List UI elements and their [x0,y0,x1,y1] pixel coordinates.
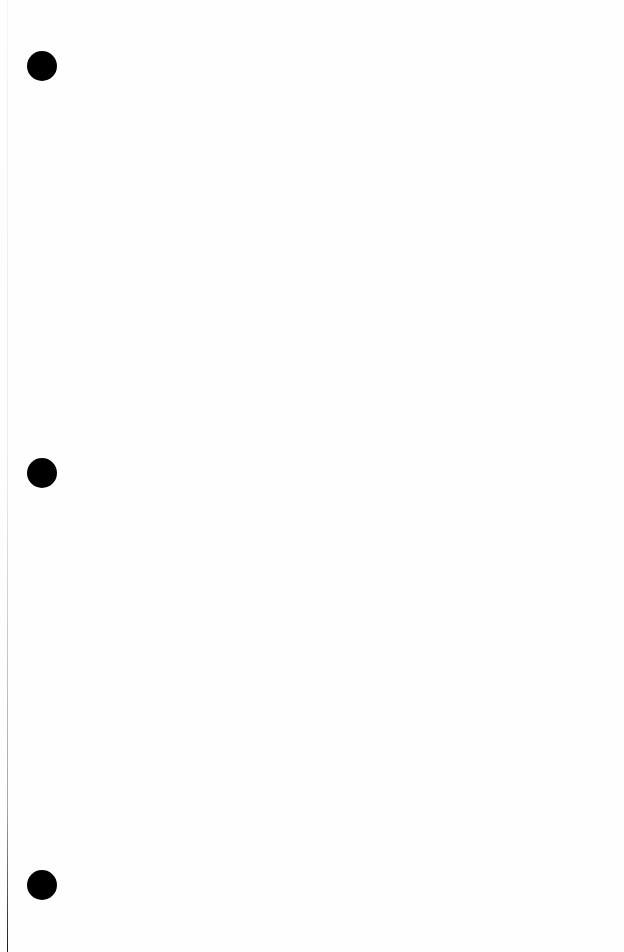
page-edge-shadow [7,0,8,952]
binder-hole-bottom-icon [27,870,57,900]
binder-hole-middle-icon [27,458,57,488]
binder-hole-top-icon [27,51,57,81]
blank-page [0,0,624,952]
